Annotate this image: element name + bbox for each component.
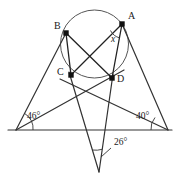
chord-bc bbox=[66, 33, 71, 75]
ray-group bbox=[8, 24, 172, 172]
point-label-a: A bbox=[128, 11, 135, 21]
point-marker-a bbox=[119, 21, 124, 26]
point-label-c: C bbox=[57, 67, 64, 77]
angle-label-bottom: 26° bbox=[114, 138, 127, 148]
ray-bottom-to-d bbox=[99, 74, 113, 172]
point-marker-b bbox=[63, 30, 68, 35]
angle-label-right: 40° bbox=[136, 112, 149, 122]
point-marker-d bbox=[109, 75, 114, 80]
point-label-d: D bbox=[117, 74, 124, 84]
geometry-figure: A B C D 46° 40° 26° x bbox=[0, 0, 176, 178]
point-marker-c bbox=[68, 72, 73, 77]
point-label-b: B bbox=[54, 21, 61, 31]
angle-label-x: x bbox=[111, 35, 115, 45]
geometry-canvas bbox=[0, 0, 176, 178]
chord-group bbox=[66, 24, 122, 78]
chord-bd bbox=[66, 33, 112, 78]
angle-arc-bottom bbox=[93, 149, 103, 150]
angle-label-left: 46° bbox=[27, 112, 40, 122]
